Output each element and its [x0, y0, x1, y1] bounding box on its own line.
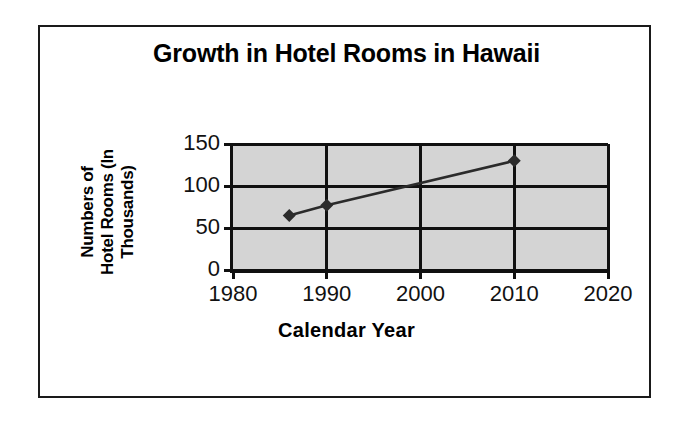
- y-tick-mark: [224, 143, 233, 146]
- y-tick-label: 0: [208, 256, 220, 282]
- y-axis-title-line-2: Hotel Rooms (In: [98, 149, 118, 275]
- y-tick-mark: [224, 185, 233, 188]
- y-axis-title-line-1: Numbers of: [78, 166, 98, 257]
- plot-area: 05010015019801990200020102020: [230, 144, 608, 273]
- x-tick-label: 2010: [490, 281, 539, 307]
- data-point-marker: [283, 209, 296, 222]
- y-tick-label: 100: [183, 172, 220, 198]
- x-tick-label: 2000: [396, 281, 445, 307]
- x-tick-mark: [607, 270, 610, 279]
- x-tick-mark: [513, 270, 516, 279]
- x-tick-label: 2020: [584, 281, 633, 307]
- y-tick-label: 150: [183, 130, 220, 156]
- x-tick-label: 1990: [302, 281, 351, 307]
- y-tick-mark: [224, 227, 233, 230]
- x-tick-mark: [325, 270, 328, 279]
- x-axis-title: Calendar Year: [40, 319, 653, 342]
- x-tick-label: 1980: [209, 281, 258, 307]
- data-point-marker: [508, 154, 521, 167]
- y-tick-label: 50: [196, 214, 220, 240]
- y-axis-title: Numbers of Hotel Rooms (In Thousands): [73, 112, 143, 312]
- x-tick-mark: [232, 270, 235, 279]
- data-point-marker: [320, 199, 333, 212]
- plot-inner: 05010015019801990200020102020: [233, 144, 608, 270]
- x-tick-mark: [419, 270, 422, 279]
- y-axis-title-line-3: Thousands): [118, 165, 138, 258]
- chart-title: Growth in Hotel Rooms in Hawaii: [40, 39, 653, 68]
- series-layer: [233, 144, 608, 270]
- chart-figure-frame: Growth in Hotel Rooms in Hawaii Numbers …: [38, 25, 651, 398]
